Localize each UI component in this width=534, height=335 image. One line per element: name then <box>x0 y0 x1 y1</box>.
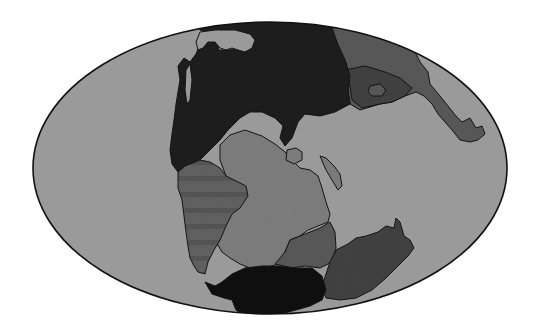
paleogeographic-world-map <box>0 0 534 335</box>
